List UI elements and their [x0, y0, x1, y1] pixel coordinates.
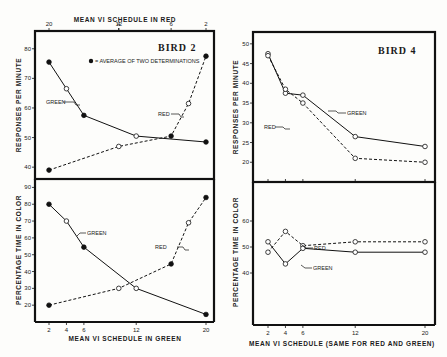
- data-point-green: [82, 245, 87, 250]
- data-point-red: [169, 262, 174, 267]
- svg-text:50: 50: [242, 41, 249, 47]
- data-point-red: [186, 101, 191, 106]
- data-point-green: [204, 312, 209, 317]
- svg-text:80: 80: [24, 46, 31, 52]
- data-point-green: [204, 140, 209, 145]
- svg-text:70: 70: [24, 218, 31, 224]
- svg-text:50: 50: [24, 252, 31, 258]
- data-point-green: [64, 86, 69, 91]
- svg-text:2: 2: [47, 327, 51, 333]
- data-point-green: [47, 202, 52, 207]
- svg-text:60: 60: [24, 235, 31, 241]
- svg-text:20: 20: [46, 21, 53, 27]
- series-line-red: [268, 231, 425, 252]
- data-point-red: [116, 144, 121, 149]
- series-line-red: [268, 56, 425, 163]
- svg-text:20: 20: [242, 159, 249, 165]
- data-point-red: [266, 250, 271, 255]
- series-line-red: [49, 198, 206, 306]
- data-point-green: [353, 134, 358, 139]
- filled-dot-legend-icon: [89, 59, 93, 63]
- data-point-green: [64, 219, 69, 224]
- data-point-green: [134, 134, 139, 139]
- data-point-green: [134, 286, 139, 291]
- bird4-red-label: RED: [264, 124, 276, 130]
- svg-text:60: 60: [242, 218, 249, 224]
- svg-text:12: 12: [133, 327, 140, 333]
- data-point-green: [301, 93, 306, 98]
- figure: 4050607080201264220304050607080902461220…: [0, 0, 447, 357]
- svg-text:2: 2: [266, 330, 270, 336]
- bird4-title: BIRD 4: [378, 45, 417, 56]
- bird4-y-label-bottom: PERCENTAGE TIME IN COLOR: [232, 197, 239, 307]
- data-point-red: [204, 54, 209, 59]
- data-point-red: [186, 220, 191, 225]
- svg-text:90: 90: [24, 184, 31, 190]
- svg-text:40: 40: [24, 164, 31, 170]
- data-point-red: [116, 286, 121, 291]
- svg-text:4: 4: [65, 327, 69, 333]
- data-point-red: [423, 240, 428, 245]
- series-line-green: [49, 204, 206, 314]
- top-axis-label: MEAN VI SCHEDULE IN RED: [74, 16, 176, 23]
- data-point-red: [423, 160, 428, 165]
- svg-text:4: 4: [284, 330, 288, 336]
- bird4-bottom-green-label: GREEN: [313, 265, 333, 271]
- svg-text:6: 6: [301, 330, 305, 336]
- series-line-red: [49, 56, 206, 170]
- data-point-red: [283, 229, 288, 234]
- data-point-red: [47, 303, 52, 308]
- svg-text:45: 45: [242, 61, 249, 67]
- legend-note: = AVERAGE OF TWO DETERMINATIONS: [95, 58, 200, 64]
- svg-text:12: 12: [352, 330, 359, 336]
- data-point-green: [423, 144, 428, 149]
- bird2-bottom-red-label: RED: [155, 244, 167, 250]
- bird2-red-label: RED: [158, 111, 170, 117]
- data-point-red: [353, 156, 358, 161]
- svg-text:6: 6: [82, 327, 86, 333]
- data-point-green: [353, 250, 358, 255]
- bird4-frame: [253, 32, 435, 325]
- data-point-red: [169, 134, 174, 139]
- bird2-frame: [35, 31, 214, 322]
- data-point-green: [82, 113, 87, 118]
- bird2-bottom-axis-label: MEAN VI SCHEDULE IN GREEN: [69, 335, 182, 342]
- data-point-green: [423, 250, 428, 255]
- svg-text:60: 60: [24, 105, 31, 111]
- bird4-green-label: GREEN: [347, 110, 367, 116]
- data-point-green: [47, 60, 52, 65]
- svg-text:80: 80: [24, 201, 31, 207]
- svg-text:50: 50: [242, 244, 249, 250]
- data-point-red: [353, 240, 358, 245]
- series-line-green: [268, 54, 425, 147]
- svg-text:20: 20: [203, 327, 210, 333]
- bird2-y-label-top: RESPONSES PER MINUTE: [15, 58, 22, 152]
- svg-text:2: 2: [204, 21, 208, 27]
- data-point-red: [283, 87, 288, 92]
- svg-text:50: 50: [24, 135, 31, 141]
- bird4-y-label-top: RESPONSES PER MINUTE: [232, 60, 239, 154]
- svg-text:40: 40: [24, 269, 31, 275]
- bird2-green-label: GREEN: [46, 99, 66, 105]
- svg-text:30: 30: [242, 120, 249, 126]
- data-point-red: [204, 195, 209, 200]
- svg-text:40: 40: [242, 80, 249, 86]
- data-point-red: [47, 168, 52, 173]
- data-point-green: [283, 262, 288, 267]
- svg-text:20: 20: [422, 330, 429, 336]
- svg-text:20: 20: [24, 302, 31, 308]
- svg-text:70: 70: [24, 75, 31, 81]
- svg-text:35: 35: [242, 100, 249, 106]
- data-point-red: [301, 101, 306, 106]
- bird2-title: BIRD 2: [158, 42, 197, 53]
- svg-text:25: 25: [242, 140, 249, 146]
- svg-text:30: 30: [24, 285, 31, 291]
- data-point-red: [266, 53, 271, 58]
- data-point-green: [266, 240, 271, 245]
- bird2-bottom-green-label: GREEN: [87, 230, 107, 236]
- bird2-y-label-bottom: PERCENTAGE TIME IN COLOR: [15, 195, 22, 305]
- svg-text:40: 40: [242, 270, 249, 276]
- bird4-bottom-axis-label: MEAN VI SCHEDULE (SAME FOR RED AND GREEN…: [249, 340, 435, 348]
- series-line-green: [268, 242, 425, 264]
- bird4-bottom-red-label: RED: [314, 245, 326, 251]
